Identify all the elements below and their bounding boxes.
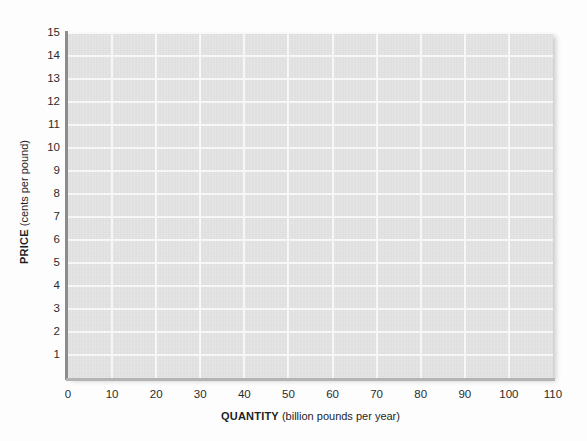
x-tick-label: 60: [313, 389, 353, 401]
y-tick-label: 8: [38, 188, 60, 200]
x-tick-label: 10: [92, 389, 132, 401]
gridline-vertical: [199, 33, 201, 378]
chart-figure: 123456789101112131415 010203040506070809…: [0, 0, 587, 441]
x-axis-title: QUANTITY (billion pounds per year): [68, 410, 553, 422]
y-tick-label: 9: [38, 165, 60, 177]
gridline-horizontal: [68, 331, 553, 333]
gridline-vertical: [155, 33, 157, 378]
gridline-horizontal: [68, 33, 553, 34]
y-tick-label: 2: [38, 326, 60, 338]
y-axis-title-bold: PRICE: [18, 229, 30, 264]
x-tick-label: 30: [180, 389, 220, 401]
gridline-vertical: [287, 33, 289, 378]
y-axis-tick-labels: 123456789101112131415: [38, 0, 60, 441]
y-tick-label: 1: [38, 349, 60, 361]
x-tick-label: 100: [489, 389, 529, 401]
gridline-vertical: [243, 33, 245, 378]
gridline-horizontal: [68, 216, 553, 218]
gridline-vertical: [376, 33, 378, 378]
x-axis-line: [66, 378, 555, 381]
y-tick-label: 4: [38, 280, 60, 292]
gridlines: [68, 33, 553, 378]
x-tick-label: 20: [136, 389, 176, 401]
gridline-horizontal: [68, 193, 553, 195]
x-axis-title-unit: (billion pounds per year): [279, 410, 400, 422]
plot-area: [68, 33, 553, 378]
y-tick-label: 6: [38, 234, 60, 246]
y-axis-line: [65, 31, 68, 380]
gridline-horizontal: [68, 285, 553, 287]
gridline-vertical: [508, 33, 510, 378]
x-tick-label: 70: [357, 389, 397, 401]
gridline-horizontal: [68, 124, 553, 126]
y-tick-label: 3: [38, 303, 60, 315]
gridline-horizontal: [68, 78, 553, 80]
y-tick-label: 5: [38, 257, 60, 269]
x-tick-label: 50: [268, 389, 308, 401]
x-tick-label: 40: [224, 389, 264, 401]
gridline-vertical: [111, 33, 113, 378]
gridline-vertical: [464, 33, 466, 378]
y-tick-label: 15: [38, 27, 60, 39]
x-tick-label: 0: [48, 389, 88, 401]
x-tick-label: 80: [401, 389, 441, 401]
y-tick-label: 12: [38, 96, 60, 108]
x-tick-label: 90: [445, 389, 485, 401]
gridline-horizontal: [68, 262, 553, 264]
x-axis-title-bold: QUANTITY: [221, 410, 279, 422]
y-axis-title: PRICE (cents per pound): [18, 102, 30, 302]
gridline-horizontal: [68, 170, 553, 172]
y-tick-label: 13: [38, 73, 60, 85]
gridline-vertical: [332, 33, 334, 378]
y-tick-label: 11: [38, 119, 60, 131]
x-tick-label: 110: [533, 389, 573, 401]
y-tick-label: 14: [38, 50, 60, 62]
y-tick-label: 10: [38, 142, 60, 154]
y-tick-label: 7: [38, 211, 60, 223]
x-axis-tick-labels: 0102030405060708090100110: [0, 389, 587, 405]
gridline-horizontal: [68, 101, 553, 103]
gridline-horizontal: [68, 147, 553, 149]
gridline-vertical: [420, 33, 422, 378]
gridline-horizontal: [68, 239, 553, 241]
gridline-horizontal: [68, 354, 553, 356]
y-axis-title-unit: (cents per pound): [18, 140, 30, 229]
gridline-horizontal: [68, 308, 553, 310]
gridline-horizontal: [68, 55, 553, 57]
